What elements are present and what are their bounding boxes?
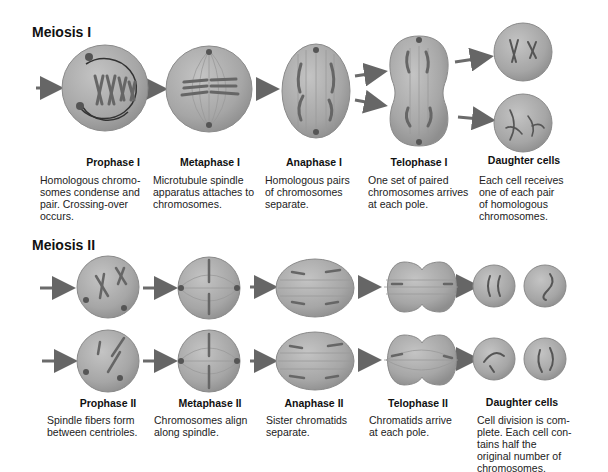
stage-description-metaphase-ii: Chromosomes align along spindle.: [154, 414, 264, 438]
stage-description-anaphase-ii: Sister chromatids separate.: [266, 414, 366, 438]
telophase-i-cell: [390, 36, 448, 146]
telophase-ii-cell-bottom: [384, 335, 458, 385]
anaphase-ii-cell-top: [276, 259, 354, 317]
stage-label-daughter-cells-ii: Daughter cells: [474, 396, 570, 408]
stage-description-anaphase-i: Homologous pairs of chromosomes separate…: [265, 174, 365, 210]
metaphase-i-cell: [166, 46, 252, 132]
telophase-ii-cell-top: [384, 262, 458, 312]
stage-label-daughter-cells-i: Daughter cells: [476, 154, 572, 166]
daughter-cell-i-bottom: [494, 94, 552, 152]
stage-label-anaphase-ii: Anaphase II: [264, 397, 364, 409]
stage-label-anaphase-i: Anaphase I: [264, 156, 364, 168]
stage-label-metaphase-ii: Metaphase II: [160, 397, 260, 409]
anaphase-ii-cell-bottom: [276, 332, 354, 390]
prophase-ii-cell-top: [77, 256, 139, 318]
stage-description-telophase-i: One set of paired chromosomes arrives at…: [368, 174, 478, 210]
stage-label-telophase-ii: Telophase II: [366, 397, 470, 409]
stage-label-prophase-i: Prophase I: [68, 156, 158, 168]
stage-label-prophase-ii: Prophase II: [60, 397, 156, 409]
stage-description-prophase-ii: Spindle fibers form between centrioles.: [47, 414, 159, 438]
metaphase-ii-cell-top: [178, 257, 240, 319]
prophase-i-cell: [62, 45, 148, 131]
meiosis-i-title: Meiosis I: [32, 24, 91, 40]
stage-description-prophase-i: Homologous chromo- somes condense and pa…: [40, 174, 158, 222]
daughter-cells-ii-top: [473, 265, 566, 307]
daughter-cells-ii-bottom: [473, 338, 566, 380]
stage-description-daughter-cells-ii: Cell division is com- plete. Each cell c…: [477, 414, 587, 472]
stage-label-metaphase-i: Metaphase I: [160, 156, 260, 168]
stage-description-telophase-ii: Chromatids arrive at each pole.: [369, 414, 469, 438]
stage-description-metaphase-i: Microtubule spindle apparatus attaches t…: [153, 174, 273, 210]
metaphase-ii-cell-bottom: [178, 330, 240, 392]
prophase-ii-cell-bottom: [77, 330, 139, 392]
anaphase-i-cell: [282, 44, 350, 138]
meiosis-ii-title: Meiosis II: [32, 237, 95, 253]
stage-label-telophase-i: Telophase I: [366, 156, 472, 168]
stage-description-daughter-cells-i: Each cell receives one of each pair of h…: [479, 174, 589, 222]
daughter-cell-i-top: [494, 23, 552, 81]
